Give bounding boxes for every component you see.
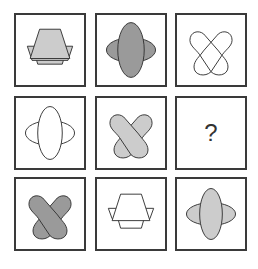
cell-r2c1[interactable] [14, 96, 86, 170]
cell-r3c2[interactable] [95, 177, 167, 251]
trapezoid-hexagon-shape [16, 15, 84, 85]
cell-r2c3-answer[interactable]: ? [175, 96, 247, 170]
ellipse-cross-shape [16, 98, 84, 168]
ellipse-cross-shape [97, 15, 165, 85]
cell-r2c2[interactable] [95, 96, 167, 170]
cell-r1c3[interactable] [175, 13, 247, 87]
question-mark: ? [177, 98, 245, 168]
cell-r3c3[interactable] [175, 177, 247, 251]
cell-r1c1[interactable] [14, 13, 86, 87]
cell-r3c1[interactable] [14, 177, 86, 251]
cell-r1c2[interactable] [95, 13, 167, 87]
double-heart-shape [97, 98, 165, 168]
double-heart-shape [177, 15, 245, 85]
trapezoid-hexagon-shape [97, 179, 165, 249]
ellipse-cross-shape [177, 179, 245, 249]
double-heart-shape [16, 179, 84, 249]
